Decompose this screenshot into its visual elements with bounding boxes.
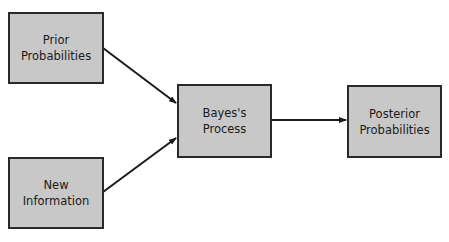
node-label-line: Bayes's [203,105,247,121]
arrow-newinfo-to-bayes [103,138,176,192]
node-label-line: Probabilities [359,122,429,138]
arrow-prior-to-bayes [103,48,176,103]
node-bayes-process: Bayes's Process [177,84,272,158]
node-prior-probabilities: Prior Probabilities [8,12,104,84]
node-label-line: Process [203,121,247,137]
node-label-line: New [43,177,68,193]
node-label-line: Prior [43,32,69,48]
node-label-line: Probabilities [21,48,91,64]
node-label-line: Information [23,193,90,209]
node-new-information: New Information [8,157,104,229]
node-label-line: Posterior [369,106,420,122]
node-posterior-probabilities: Posterior Probabilities [347,85,442,158]
